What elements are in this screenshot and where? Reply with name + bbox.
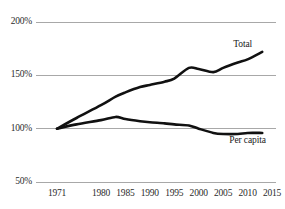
series-label-total: Total <box>233 39 252 49</box>
x-tick-label-2010: 2010 <box>238 188 256 198</box>
y-tick-label-150pct: 150% <box>0 69 32 79</box>
x-tick-label-2005: 2005 <box>214 188 232 198</box>
series-label-per-capita: Per capita <box>229 135 266 145</box>
series-line-total <box>57 52 262 129</box>
chart-container: 50%100%150%200% 197119801985199019952000… <box>0 0 285 209</box>
y-tick-label-50pct: 50% <box>0 176 32 186</box>
x-tick-label-1971: 1971 <box>48 188 66 198</box>
y-tick-label-100pct: 100% <box>0 123 32 133</box>
x-tick-label-1980: 1980 <box>92 188 110 198</box>
y-tick-label-200pct: 200% <box>0 16 32 26</box>
x-tick-label-1985: 1985 <box>116 188 134 198</box>
x-tick-label-2015: 2015 <box>263 188 281 198</box>
series-line-per-capita <box>57 117 262 134</box>
series-lines-group <box>57 52 262 134</box>
x-tick-label-2000: 2000 <box>190 188 208 198</box>
x-tick-label-1990: 1990 <box>141 188 159 198</box>
x-tick-label-1995: 1995 <box>165 188 183 198</box>
chart-plot-area <box>0 0 285 209</box>
